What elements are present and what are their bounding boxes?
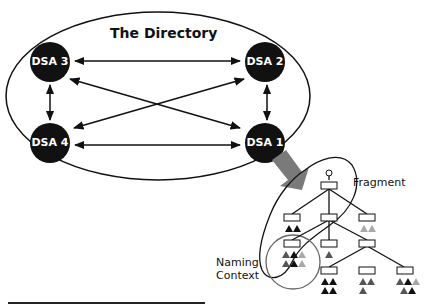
dsa2-label: DSA 2 bbox=[245, 55, 285, 69]
dsa-connections bbox=[50, 61, 267, 145]
directory-title: The Directory bbox=[110, 25, 217, 41]
dsa4-label: DSA 4 bbox=[30, 136, 70, 150]
naming-context-label-line2: Context bbox=[216, 269, 259, 282]
horizontal-rule bbox=[8, 302, 205, 304]
dsa1-label: DSA 1 bbox=[245, 136, 285, 150]
directory-entries bbox=[282, 225, 420, 294]
directory-diagram bbox=[0, 0, 426, 307]
naming-context-label-line1: Naming bbox=[216, 256, 259, 269]
fragment-label: Fragment bbox=[353, 176, 406, 189]
dsa3-label: DSA 3 bbox=[30, 55, 70, 69]
